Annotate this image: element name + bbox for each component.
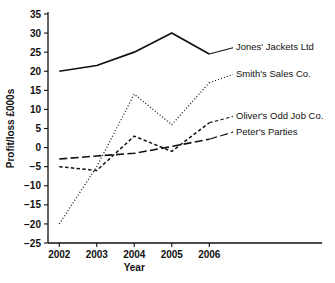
series-leader-line-0 — [209, 48, 233, 54]
series-label-2: Oliver's Odd Job Co. — [236, 110, 323, 121]
series-line-3 — [59, 139, 209, 159]
series-line-0 — [59, 33, 209, 71]
x-axis-tick-label: 2002 — [48, 249, 71, 260]
y-axis-tick-label: 30 — [30, 28, 42, 39]
x-axis-tick-label: 2003 — [86, 249, 109, 260]
line-chart: 35302520151050−5−10−15−20−25200220032004… — [0, 0, 335, 283]
series-line-2 — [59, 123, 209, 171]
chart-container: 35302520151050−5−10−15−20−25200220032004… — [0, 0, 335, 283]
y-axis-tick-label: −20 — [24, 219, 41, 230]
series-leader-line-1 — [209, 74, 233, 82]
y-axis-tick-label: 15 — [30, 85, 42, 96]
y-axis-tick-label: 35 — [30, 9, 42, 20]
y-axis-tick-label: 0 — [35, 142, 41, 153]
y-axis-tick-label: −25 — [24, 238, 41, 249]
y-axis-tick-label: 25 — [30, 47, 42, 58]
y-axis-tick-label: −5 — [30, 161, 42, 172]
y-axis-tick-label: −15 — [24, 199, 41, 210]
y-axis-tick-label: 20 — [30, 66, 42, 77]
series-leader-line-3 — [209, 132, 233, 139]
series-leader-line-2 — [209, 116, 233, 122]
series-label-1: Smith's Sales Co. — [236, 68, 311, 79]
x-axis-tick-label: 2004 — [123, 249, 146, 260]
y-axis-tick-label: 5 — [35, 123, 41, 134]
x-axis-tick-label: 2006 — [198, 249, 221, 260]
series-label-3: Peter's Parties — [236, 126, 298, 137]
x-axis-tick-label: 2005 — [161, 249, 184, 260]
x-axis-title: Year — [124, 262, 145, 273]
y-axis-title: Profit/loss £000s — [5, 88, 16, 168]
series-label-0: Jones' Jackets Ltd — [236, 41, 314, 52]
y-axis-tick-label: 10 — [30, 104, 42, 115]
y-axis-tick-label: −10 — [24, 180, 41, 191]
